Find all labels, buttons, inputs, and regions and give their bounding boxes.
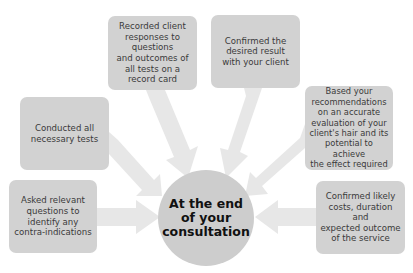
arrow-tests: [109, 132, 162, 196]
node-tests: Conducted all necessary tests: [20, 97, 109, 170]
arrow-record-card: [146, 90, 198, 178]
arrow-costs: [255, 200, 316, 234]
arrow-recommendations: [245, 124, 305, 196]
node-record-card: Recorded client responses to questions a…: [108, 16, 197, 90]
arrow-desired-result: [220, 88, 262, 178]
arrow-contra-indications: [97, 200, 160, 234]
node-recommendations: Based your recommendations on an accurat…: [305, 86, 393, 170]
node-costs: Confirmed likely costs, duration and exp…: [316, 181, 405, 254]
node-contra-indications: Asked relevant questions to identify any…: [9, 180, 97, 253]
center-hub: At the end of your consultation: [158, 170, 254, 266]
node-desired-result: Confirmed the desired result with your c…: [211, 15, 300, 88]
